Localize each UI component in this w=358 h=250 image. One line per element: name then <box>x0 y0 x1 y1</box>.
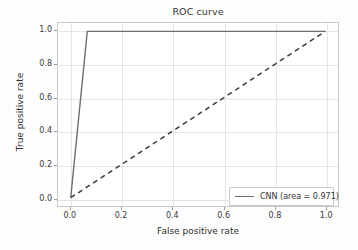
y-axis-label: True positive rate <box>15 52 25 172</box>
y-tick-label-0.2: 0.2 <box>28 160 52 169</box>
y-tick-label-0.0: 0.0 <box>28 194 52 203</box>
chart-title: ROC curve <box>57 6 339 17</box>
x-tick-label-0.2: 0.2 <box>106 211 136 220</box>
roc-curve-figure: ROC curve 0.00.20.40.60.81.00.00.20.40.6… <box>0 0 358 250</box>
y-tick-mark-1.0 <box>54 30 57 31</box>
y-tick-label-0.6: 0.6 <box>28 93 52 102</box>
x-tick-label-1.0: 1.0 <box>311 211 341 220</box>
x-tick-mark-0.6 <box>224 207 225 210</box>
x-tick-mark-1.0 <box>326 207 327 210</box>
legend-box: CNN (area = 0.971) <box>229 187 334 206</box>
legend-line-swatch <box>235 196 254 197</box>
y-tick-mark-0.0 <box>54 199 57 200</box>
legend-entry-label: CNN (area = 0.971) <box>260 192 339 201</box>
y-tick-label-0.4: 0.4 <box>28 126 52 135</box>
x-tick-mark-0.0 <box>70 207 71 210</box>
y-tick-mark-0.4 <box>54 131 57 132</box>
y-tick-mark-0.8 <box>54 64 57 65</box>
series-layer <box>58 23 338 206</box>
series-line-chance-diagonal <box>71 31 326 197</box>
x-tick-label-0.0: 0.0 <box>55 211 85 220</box>
y-tick-mark-0.2 <box>54 165 57 166</box>
plot-area <box>57 22 339 207</box>
x-tick-mark-0.4 <box>172 207 173 210</box>
y-tick-label-0.8: 0.8 <box>28 59 52 68</box>
y-tick-mark-0.6 <box>54 98 57 99</box>
y-tick-label-1.0: 1.0 <box>28 25 52 34</box>
x-axis-label: False positive rate <box>57 226 339 236</box>
x-tick-mark-0.8 <box>275 207 276 210</box>
x-tick-mark-0.2 <box>121 207 122 210</box>
x-tick-label-0.8: 0.8 <box>260 211 290 220</box>
x-tick-label-0.4: 0.4 <box>157 211 187 220</box>
x-tick-label-0.6: 0.6 <box>209 211 239 220</box>
